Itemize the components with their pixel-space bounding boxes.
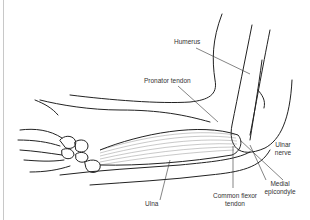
label-ulnar-nerve: Ulnar nerve: [268, 141, 298, 157]
label-ulna: Ulna: [145, 200, 158, 208]
label-ulnar-nerve-line1: Ulnar: [268, 141, 298, 149]
label-medial-epicondyle-line2: epicondyle: [260, 188, 300, 196]
label-common-flexor-line1: Common flexor: [210, 192, 260, 200]
label-ulnar-nerve-line2: nerve: [268, 149, 298, 157]
anatomy-figure: Humerus Pronator tendon Ulnar nerve Medi…: [0, 0, 310, 220]
label-medial-epicondyle-line1: Medial: [260, 180, 300, 188]
label-common-flexor-line2: tendon: [210, 200, 260, 208]
label-humerus: Humerus: [174, 38, 200, 46]
label-medial-epicondyle: Medial epicondyle: [260, 180, 300, 196]
label-pronator-tendon: Pronator tendon: [144, 77, 191, 85]
label-common-flexor-tendon: Common flexor tendon: [210, 192, 260, 208]
